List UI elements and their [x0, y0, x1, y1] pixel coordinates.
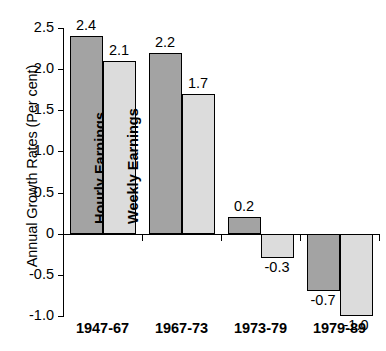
- x-axis-separator-tick: [300, 234, 301, 241]
- x-axis-separator-tick: [142, 234, 143, 241]
- x-axis-separator-tick: [379, 234, 380, 241]
- y-axis-tick-label: -1.0: [14, 307, 54, 323]
- y-axis-tick-label: 1.5: [14, 101, 54, 117]
- y-axis-tick-label: -0.5: [14, 266, 54, 282]
- bar-hourly-earnings-1979-89[interactable]: [307, 234, 340, 292]
- bar-value-label: -0.3: [250, 259, 305, 275]
- bar-value-label: 2.4: [59, 17, 114, 33]
- y-axis-tick-label: 0: [14, 225, 54, 241]
- y-axis-tick: 2.0: [58, 69, 64, 70]
- y-axis-tick-label: 2.0: [14, 60, 54, 76]
- y-axis-tick: 1.0: [58, 151, 64, 152]
- y-axis-tick-label: 0.5: [14, 184, 54, 200]
- x-axis-category-label: 1947-67: [63, 320, 142, 336]
- y-axis-tick: 1.5: [58, 110, 64, 111]
- x-axis-category-label: 1979-89: [300, 320, 379, 336]
- x-axis-category-label: 1973-79: [221, 320, 300, 336]
- y-axis-tick: -0.5: [58, 275, 64, 276]
- y-axis-tick-label: 2.5: [14, 19, 54, 35]
- x-axis-category-label: 1967-73: [142, 320, 221, 336]
- bar-series-label: Weekly Earnings: [125, 108, 141, 224]
- bar-weekly-earnings-1973-79[interactable]: [261, 234, 294, 259]
- bar-hourly-earnings-1973-79[interactable]: [228, 217, 261, 233]
- y-axis-line: [63, 28, 64, 316]
- bar-weekly-earnings-1979-89[interactable]: [340, 234, 373, 316]
- plot-area: 2.52.01.51.00.50-0.5-1.0 Hourly Earnings…: [63, 28, 379, 316]
- y-axis-tick: -1.0: [58, 316, 64, 317]
- y-axis-tick-label: 1.0: [14, 142, 54, 158]
- x-axis-separator-tick: [221, 234, 222, 241]
- bar-chart: Annual Growth Rates (Per cent) 2.52.01.5…: [0, 0, 386, 351]
- y-axis-tick: 0.5: [58, 193, 64, 194]
- bar-weekly-earnings-1967-73[interactable]: [182, 94, 215, 234]
- bar-value-label: 0.2: [217, 198, 272, 214]
- bar-value-label: 2.2: [138, 34, 193, 50]
- x-axis-separator-tick: [63, 234, 64, 241]
- bar-value-label: 1.7: [171, 75, 226, 91]
